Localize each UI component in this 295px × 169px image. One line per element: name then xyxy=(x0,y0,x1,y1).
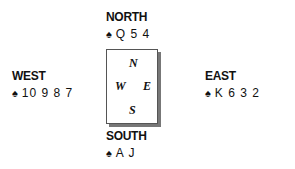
compass-north: N xyxy=(129,56,138,71)
north-cards: ♠Q 5 4 xyxy=(106,27,150,41)
south-hand: SOUTH ♠A J xyxy=(106,129,147,160)
spade-icon: ♠ xyxy=(106,28,113,40)
south-cards: ♠A J xyxy=(106,146,147,160)
west-card-values: 10 9 8 7 xyxy=(22,86,73,100)
east-cards: ♠K 6 3 2 xyxy=(205,86,260,100)
west-label: WEST xyxy=(12,69,73,83)
north-card-values: Q 5 4 xyxy=(116,27,150,41)
west-cards: ♠10 9 8 7 xyxy=(12,86,73,100)
west-hand: WEST ♠10 9 8 7 xyxy=(12,69,73,100)
compass-table: N W E S xyxy=(106,49,158,124)
north-hand: NORTH ♠Q 5 4 xyxy=(106,10,150,41)
compass-east: E xyxy=(143,79,151,94)
north-label: NORTH xyxy=(106,10,150,24)
east-hand: EAST ♠K 6 3 2 xyxy=(205,69,260,100)
south-label: SOUTH xyxy=(106,129,147,143)
compass-south: S xyxy=(129,103,136,118)
east-card-values: K 6 3 2 xyxy=(215,86,260,100)
spade-icon: ♠ xyxy=(106,147,113,159)
spade-icon: ♠ xyxy=(205,87,212,99)
south-card-values: A J xyxy=(116,146,136,160)
spade-icon: ♠ xyxy=(12,87,19,99)
compass-west: W xyxy=(115,79,126,94)
east-label: EAST xyxy=(205,69,260,83)
